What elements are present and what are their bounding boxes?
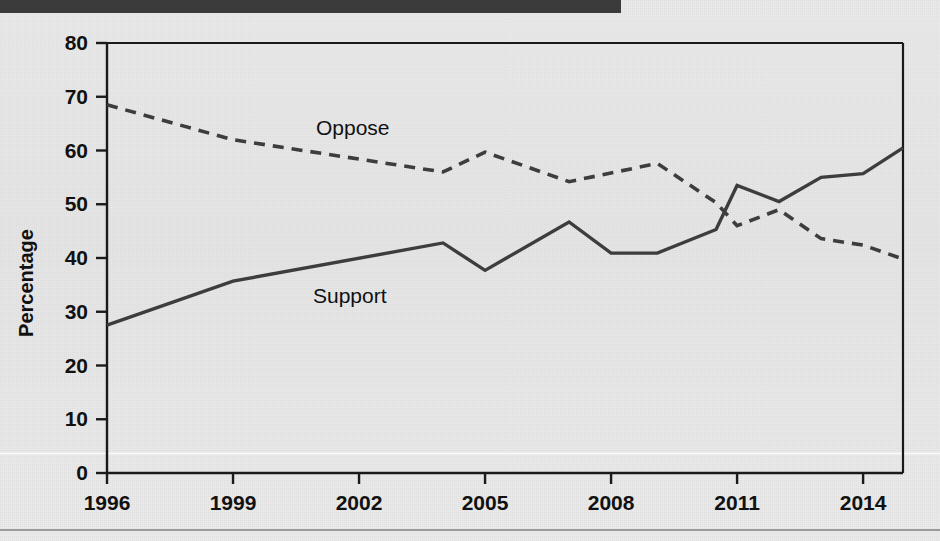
y-tick-label: 40: [65, 246, 88, 269]
y-tick-label: 20: [65, 354, 88, 377]
series-line-support: [107, 148, 903, 325]
x-tick-label: 2008: [588, 491, 635, 514]
x-tick-labels: 1996199920022005200820112014: [84, 491, 887, 514]
y-tick-labels: 01020304050607080: [65, 31, 88, 484]
x-tick-label: 2011: [714, 491, 760, 514]
x-tick-label: 1996: [84, 491, 131, 514]
y-tick-label: 50: [65, 192, 88, 215]
y-axis-title: Percentage: [15, 229, 37, 337]
line-chart-plot: 01020304050607080 1996199920022005200820…: [0, 0, 940, 541]
y-tick-marks: [96, 43, 107, 473]
y-tick-label: 70: [65, 85, 88, 108]
series-annotation-oppose: Oppose: [316, 116, 390, 139]
x-tick-label: 2014: [840, 491, 887, 514]
series-line-oppose: [107, 105, 903, 259]
chart-figure: 01020304050607080 1996199920022005200820…: [0, 0, 940, 541]
y-tick-label: 30: [65, 300, 88, 323]
x-tick-label: 2002: [336, 491, 383, 514]
x-tick-marks: [107, 473, 863, 484]
x-tick-label: 2005: [462, 491, 509, 514]
series-annotation-support: Support: [313, 284, 387, 307]
y-tick-label: 80: [65, 31, 88, 54]
y-tick-label: 0: [76, 461, 88, 484]
y-tick-label: 10: [65, 407, 88, 430]
x-tick-label: 1999: [210, 491, 257, 514]
y-tick-label: 60: [65, 139, 88, 162]
